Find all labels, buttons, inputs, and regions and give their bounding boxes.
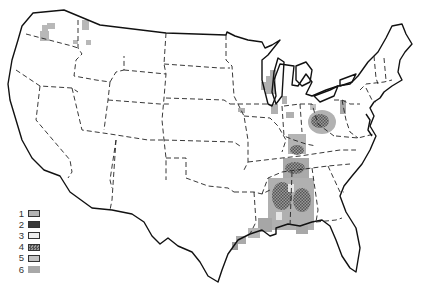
- national-outline: [8, 10, 412, 282]
- legend-item-2: 2: [16, 219, 40, 230]
- legend-swatch: [28, 244, 40, 251]
- map-legend: 1 2 3 4 5 6: [16, 208, 40, 275]
- legend-item-1: 1: [16, 208, 40, 219]
- legend-item-4: 4: [16, 242, 40, 253]
- legend-swatch: [28, 232, 40, 239]
- legend-label: 4: [16, 242, 24, 252]
- legend-label: 6: [16, 265, 24, 275]
- legend-label: 5: [16, 253, 24, 263]
- us-map: [0, 0, 431, 287]
- legend-label: 1: [16, 209, 24, 219]
- area-great-lakes: [240, 70, 294, 118]
- legend-label: 3: [16, 231, 24, 241]
- legend-swatch: [28, 266, 40, 273]
- area-deep-south: [232, 178, 314, 250]
- legend-swatch: [28, 255, 40, 262]
- area-ohio: [308, 100, 346, 134]
- distribution-areas: [40, 20, 346, 250]
- legend-swatch: [28, 221, 40, 228]
- legend-label: 2: [16, 220, 24, 230]
- legend-item-6: 6: [16, 264, 40, 275]
- state-borders: [16, 20, 392, 234]
- legend-swatch: [28, 210, 40, 217]
- area-pacific-northwest: [40, 20, 91, 45]
- legend-item-3: 3: [16, 230, 40, 241]
- legend-item-5: 5: [16, 253, 40, 264]
